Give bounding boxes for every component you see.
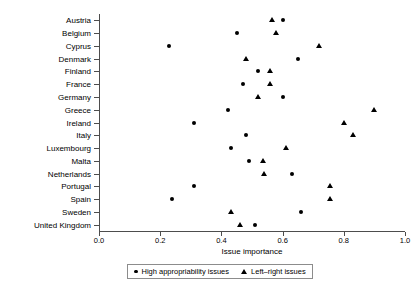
y-tick bbox=[94, 148, 99, 149]
y-tick bbox=[94, 135, 99, 136]
data-point-circle bbox=[281, 18, 285, 22]
y-tick-label-united-kingdom: United Kingdom bbox=[34, 220, 91, 229]
x-axis-line bbox=[99, 231, 405, 232]
plot-area bbox=[99, 14, 405, 231]
y-tick-label-netherlands: Netherlands bbox=[48, 169, 91, 178]
y-tick bbox=[94, 161, 99, 162]
y-tick bbox=[94, 84, 99, 85]
data-point-circle bbox=[244, 133, 248, 137]
data-point-triangle bbox=[261, 171, 267, 176]
y-tick-label-germany: Germany bbox=[58, 92, 91, 101]
x-tick-label-0.4: 0.4 bbox=[216, 236, 226, 245]
x-tick-label-0.8: 0.8 bbox=[339, 236, 349, 245]
data-point-triangle bbox=[350, 132, 356, 137]
y-tick-label-austria: Austria bbox=[66, 16, 91, 25]
data-point-triangle bbox=[243, 56, 249, 61]
y-tick bbox=[94, 186, 99, 187]
data-point-triangle bbox=[269, 17, 275, 22]
y-tick bbox=[94, 71, 99, 72]
y-tick-label-cyprus: Cyprus bbox=[66, 41, 91, 50]
y-tick bbox=[94, 199, 99, 200]
data-point-triangle bbox=[327, 183, 333, 188]
y-tick bbox=[94, 174, 99, 175]
data-point-triangle bbox=[283, 145, 289, 150]
data-point-circle bbox=[241, 82, 245, 86]
legend: High appropriability issues Left–right i… bbox=[127, 264, 313, 279]
scatter-plot-figure: AustriaBelgiumCyprusDenmarkFinlandFrance… bbox=[0, 0, 420, 289]
data-point-triangle bbox=[316, 43, 322, 48]
y-tick bbox=[94, 110, 99, 111]
data-point-triangle bbox=[260, 158, 266, 163]
data-point-circle bbox=[192, 184, 196, 188]
y-tick-label-malta: Malta bbox=[71, 156, 91, 165]
legend-label-high-appropriability: High appropriability issues bbox=[142, 267, 230, 276]
x-axis-title: Issue importance bbox=[99, 247, 405, 256]
triangle-marker-icon bbox=[241, 269, 247, 274]
legend-entry-left-right: Left–right issues bbox=[241, 267, 306, 276]
y-tick bbox=[94, 225, 99, 226]
y-tick-label-portugal: Portugal bbox=[61, 182, 91, 191]
data-point-triangle bbox=[341, 120, 347, 125]
y-axis-line bbox=[99, 14, 100, 231]
data-point-triangle bbox=[237, 222, 243, 227]
data-point-triangle bbox=[267, 68, 273, 73]
data-point-circle bbox=[167, 44, 171, 48]
y-tick bbox=[94, 123, 99, 124]
y-tick-label-italy: Italy bbox=[76, 131, 91, 140]
y-tick-label-spain: Spain bbox=[71, 195, 91, 204]
x-tick-label-0.2: 0.2 bbox=[155, 236, 165, 245]
legend-label-left-right: Left–right issues bbox=[251, 267, 306, 276]
data-point-circle bbox=[229, 146, 233, 150]
x-tick-label-0.0: 0.0 bbox=[94, 236, 104, 245]
legend-entry-high-appropriability: High appropriability issues bbox=[134, 267, 229, 276]
data-point-circle bbox=[235, 31, 239, 35]
data-point-triangle bbox=[228, 209, 234, 214]
x-tick-label-1.0: 1.0 bbox=[400, 236, 410, 245]
data-point-circle bbox=[281, 95, 285, 99]
data-point-triangle bbox=[255, 94, 261, 99]
y-tick bbox=[94, 59, 99, 60]
y-tick bbox=[94, 212, 99, 213]
data-point-circle bbox=[192, 121, 196, 125]
data-point-circle bbox=[296, 57, 300, 61]
data-point-circle bbox=[253, 223, 257, 227]
y-tick-label-sweden: Sweden bbox=[62, 207, 91, 216]
y-tick-label-france: France bbox=[66, 80, 91, 89]
data-point-triangle bbox=[371, 107, 377, 112]
data-point-circle bbox=[247, 159, 251, 163]
data-point-circle bbox=[290, 172, 294, 176]
y-tick-label-belgium: Belgium bbox=[62, 29, 91, 38]
y-tick-label-denmark: Denmark bbox=[59, 54, 91, 63]
data-point-circle bbox=[226, 108, 230, 112]
y-tick-label-finland: Finland bbox=[65, 67, 91, 76]
y-tick bbox=[94, 20, 99, 21]
data-point-circle bbox=[299, 210, 303, 214]
data-point-triangle bbox=[273, 30, 279, 35]
circle-marker-icon bbox=[134, 270, 138, 274]
y-tick-label-ireland: Ireland bbox=[67, 118, 91, 127]
y-tick bbox=[94, 33, 99, 34]
data-point-triangle bbox=[327, 196, 333, 201]
y-tick bbox=[94, 97, 99, 98]
y-tick-label-greece: Greece bbox=[65, 105, 91, 114]
data-point-circle bbox=[256, 69, 260, 73]
data-point-circle bbox=[170, 197, 174, 201]
y-tick bbox=[94, 46, 99, 47]
y-tick-label-luxembourg: Luxembourg bbox=[47, 144, 91, 153]
data-point-triangle bbox=[267, 81, 273, 86]
x-tick-label-0.6: 0.6 bbox=[277, 236, 287, 245]
